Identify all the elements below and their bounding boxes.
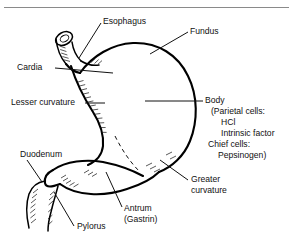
label-esophagus: Esophagus [103,16,146,26]
label-fundus: Fundus [190,26,219,36]
label-antrum-line1: Antrum [124,203,152,213]
antrum-lower-contour [60,172,159,194]
label-greater-curvature-line1: Greater [191,174,220,184]
label-body-line6: Pepsinogen) [218,150,266,160]
pylorus-leader [54,192,74,226]
lesser-curvature-contour [71,66,103,165]
label-antrum-line2: (Gastrin) [124,214,158,224]
label-body-line3: HCl [221,117,235,127]
label-greater-curvature-line2: curvature [191,185,227,195]
label-body-line1: Body [205,95,225,105]
label-body-line2: (Parietal cells: [211,106,265,116]
label-cardia: Cardia [17,62,43,72]
antrum-interior-hatching [84,170,97,177]
duodenum-hatching [30,189,54,225]
fundus-leader [150,32,188,54]
label-pylorus: Pylorus [77,221,106,231]
stomach-diagram-svg: Esophagus Fundus Cardia Lesser curvature… [0,0,293,239]
antrum-upper-contour [53,161,143,176]
label-duodenum: Duodenum [20,149,62,159]
label-lesser-curvature: Lesser curvature [11,97,75,107]
label-body-line5: Chief cells: [208,139,250,149]
duodenum-leader [27,160,42,182]
pylorus-hatching [61,175,79,187]
duodenum-outer-wall [27,181,45,228]
label-body-line4: Intrinsic factor [221,128,275,138]
antrum-leader [106,172,122,207]
greater-curvature-hatching [146,152,176,172]
esophagus-lumen-inner [59,34,70,44]
fundus-and-greater-curvature [80,43,196,172]
esophagus-leader [79,23,101,58]
stomach-anatomy-figure: Esophagus Fundus Cardia Lesser curvature… [0,0,293,239]
pylorus-contour [45,170,60,187]
esophagus-hatching [60,46,71,61]
lesser-curvature-hatching [78,81,107,133]
esophagus-inner-wall [72,42,81,61]
